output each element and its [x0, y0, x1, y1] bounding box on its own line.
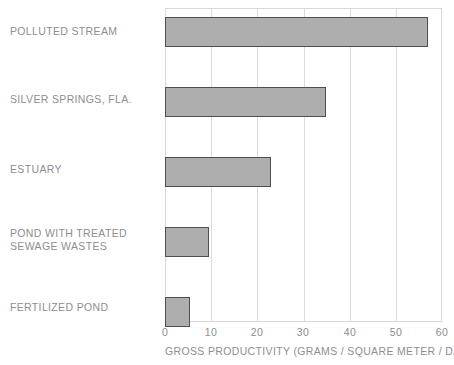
- category-label-fertilized-pond: FERTILIZED POND: [10, 301, 158, 314]
- bar-estuary[interactable]: [165, 157, 271, 187]
- category-label-pond-treated-sewage: POND WITH TREATED SEWAGE WASTES: [10, 227, 158, 252]
- bar-polluted-stream[interactable]: [165, 17, 428, 47]
- bar-fertilized-pond[interactable]: [165, 297, 190, 327]
- x-tick-10: 10: [205, 326, 217, 338]
- bar-silver-springs[interactable]: [165, 87, 326, 117]
- x-tick-0: 0: [162, 326, 168, 338]
- x-tick-20: 20: [251, 326, 263, 338]
- x-axis-ticks: 0 10 20 30 40 50 60: [165, 326, 442, 340]
- category-label-estuary: ESTUARY: [10, 163, 158, 176]
- x-tick-60: 60: [436, 326, 448, 338]
- bar-chart: POLLUTED STREAM SILVER SPRINGS, FLA. EST…: [0, 0, 454, 365]
- bars-layer: [165, 8, 442, 322]
- category-label-silver-springs: SILVER SPRINGS, FLA.: [10, 93, 158, 106]
- category-label-polluted-stream: POLLUTED STREAM: [10, 25, 158, 38]
- x-tick-40: 40: [344, 326, 356, 338]
- x-tick-50: 50: [390, 326, 402, 338]
- bar-pond-treated-sewage[interactable]: [165, 227, 209, 257]
- x-axis-title: GROSS PRODUCTIVITY (GRAMS / SQUARE METER…: [165, 345, 442, 357]
- x-tick-30: 30: [297, 326, 309, 338]
